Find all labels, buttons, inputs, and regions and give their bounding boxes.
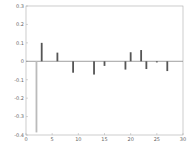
x-tick-label: 0 (24, 136, 27, 142)
y-tick-label: 0.1 (16, 40, 24, 46)
x-tick-label: 5 (51, 136, 54, 142)
y-tick-label: -0.4 (14, 132, 24, 138)
y-tick-label: -0.2 (14, 95, 24, 101)
bar (156, 61, 158, 62)
y-tick-label: 0.2 (16, 21, 24, 27)
x-tick-label: 15 (101, 136, 107, 142)
bar (130, 52, 132, 61)
plot-area (26, 6, 183, 135)
x-tick-label: 10 (75, 136, 81, 142)
bar (145, 61, 147, 69)
bar (166, 61, 168, 71)
y-tick-label: -0.3 (14, 113, 24, 119)
bar-chart: 0.30.20.10-0.1-0.2-0.3-0.4 051015202530 (0, 0, 196, 148)
bar (104, 61, 106, 66)
x-tick-label: 25 (154, 136, 160, 142)
y-tick-label: -0.1 (14, 77, 24, 83)
y-tick-label: 0.3 (16, 3, 24, 9)
bar (125, 61, 127, 69)
x-tick-label: 20 (127, 136, 133, 142)
y-tick-label: 0 (21, 58, 24, 64)
bar (41, 43, 43, 61)
bar (72, 61, 74, 72)
bar (93, 61, 95, 74)
bar (57, 53, 59, 62)
bar (140, 50, 142, 61)
x-tick-label: 30 (180, 136, 186, 142)
bar (36, 61, 38, 132)
